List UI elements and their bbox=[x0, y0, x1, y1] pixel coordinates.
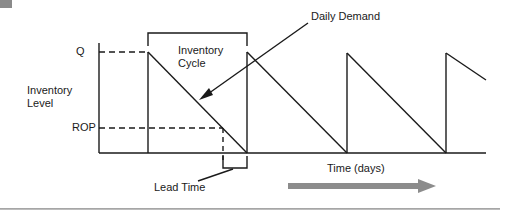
x-axis-label: Time (days) bbox=[327, 162, 385, 174]
q-label: Q bbox=[76, 45, 85, 57]
inventory-diagram bbox=[0, 0, 510, 212]
time-arrow-shaft bbox=[288, 183, 418, 189]
daily-demand-pointer bbox=[205, 23, 308, 96]
cycle-2-depletion bbox=[247, 52, 347, 153]
daily-demand-arrowhead bbox=[199, 88, 213, 100]
lead-time-pointer bbox=[198, 169, 233, 181]
cycle-3-depletion bbox=[347, 53, 446, 153]
rop-label: ROP bbox=[72, 121, 96, 133]
y-axis-label-line1: Inventory bbox=[27, 84, 72, 96]
inventory-cycle-label-line2: Cycle bbox=[178, 57, 206, 69]
y-axis-label-line2: Level bbox=[27, 97, 53, 109]
daily-demand-label: Daily Demand bbox=[311, 10, 380, 22]
cycle-4-depletion bbox=[446, 53, 486, 80]
lead-time-bracket bbox=[223, 156, 247, 168]
lead-time-label: Lead Time bbox=[154, 181, 205, 193]
time-arrow-head bbox=[418, 179, 436, 193]
inventory-cycle-label-line1: Inventory bbox=[178, 44, 223, 56]
bottom-rule bbox=[0, 208, 500, 210]
